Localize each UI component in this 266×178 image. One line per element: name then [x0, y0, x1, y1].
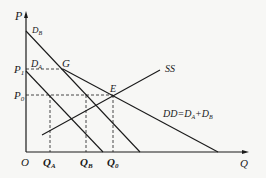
quantity-qb-label: QB	[80, 156, 93, 170]
y-axis-label: P	[14, 9, 23, 23]
x-axis-arrow-icon	[242, 150, 249, 154]
supply-label: SS	[165, 63, 175, 74]
supply-curve	[42, 70, 160, 135]
price-p0-label: P0	[13, 89, 25, 103]
market-demand-label: DD=DA+DB	[162, 108, 213, 120]
quantity-qa-label: QA	[43, 156, 56, 170]
demand-a-curve	[26, 71, 103, 152]
point-e-label: E	[109, 83, 116, 94]
demand-b-label: DB	[31, 25, 43, 36]
quantity-q0-label: Q0	[107, 156, 119, 170]
price-p1-label: P1	[13, 63, 24, 77]
point-g-label: G	[62, 57, 70, 69]
y-axis-arrow-icon	[24, 11, 28, 18]
demand-a-label: DA	[30, 58, 42, 70]
x-axis-label: Q	[240, 157, 248, 169]
supply-demand-diagram: P Q O P1 P0 QA QB Q0 DB DA SS DD=DA+DB G…	[0, 0, 266, 178]
origin-label: O	[21, 156, 29, 168]
